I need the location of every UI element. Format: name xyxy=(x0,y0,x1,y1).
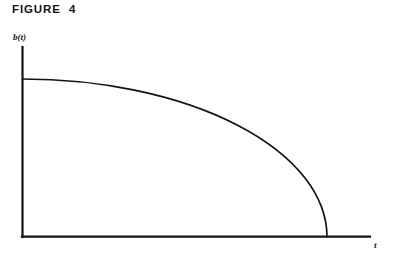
y-axis-label: b(t) xyxy=(13,32,26,42)
plot-area: b(t) t xyxy=(0,0,401,256)
decay-curve xyxy=(23,79,328,237)
figure-page: FIGURE 4 b(t) t xyxy=(0,0,401,256)
x-axis-label: t xyxy=(374,240,377,250)
